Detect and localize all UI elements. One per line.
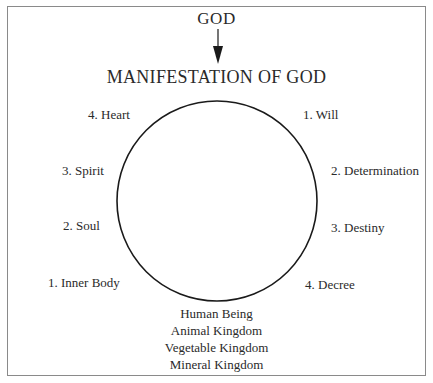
right-label-decree: 4. Decree <box>305 277 355 292</box>
manifestation-title: MANIFESTATION OF GOD <box>0 66 433 88</box>
right-label-determination: 2. Determination <box>331 163 419 178</box>
kingdom-human-being: Human Being <box>0 305 433 322</box>
right-label-destiny: 3. Destiny <box>331 220 384 235</box>
left-label-heart: 4. Heart <box>88 107 130 122</box>
left-label-soul: 2. Soul <box>63 218 100 233</box>
left-label-inner-body: 1. Inner Body <box>48 275 120 290</box>
left-label-spirit: 3. Spirit <box>62 163 104 178</box>
kingdom-vegetable: Vegetable Kingdom <box>0 339 433 356</box>
down-arrow-icon <box>213 29 223 64</box>
kingdom-mineral: Mineral Kingdom <box>0 356 433 373</box>
kingdom-animal: Animal Kingdom <box>0 322 433 339</box>
kingdoms-list: Human Being Animal Kingdom Vegetable Kin… <box>0 305 433 373</box>
right-label-will: 1. Will <box>303 107 338 122</box>
god-label: GOD <box>0 9 433 29</box>
manifestation-circle <box>117 101 317 301</box>
